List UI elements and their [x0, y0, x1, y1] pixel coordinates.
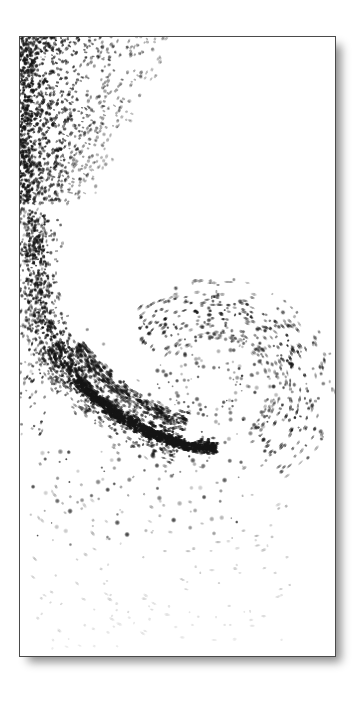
figure-card — [19, 36, 336, 657]
particle-scatter-plot — [20, 37, 335, 656]
